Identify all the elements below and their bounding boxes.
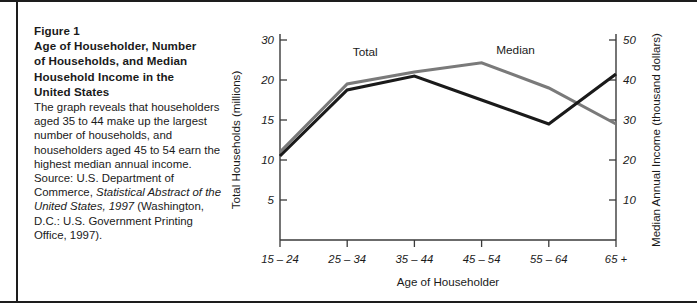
right-axis-ticks: 1020304050	[609, 34, 636, 206]
figure-title-line-4: United States	[34, 85, 226, 99]
figure-panel: Figure 1 Age of Householder, Number of H…	[0, 0, 697, 303]
right-tick-label: 50	[623, 34, 636, 46]
right-tick-label: 10	[623, 194, 636, 206]
series-label-total: Total	[353, 45, 378, 59]
right-tick-label: 40	[623, 74, 636, 86]
left-rule	[16, 2, 18, 301]
figure-title-line-2: of Households, and Median	[34, 54, 226, 68]
x-tick-label: 25 – 34	[327, 253, 366, 265]
right-tick-label: 30	[623, 114, 636, 126]
top-rule	[0, 0, 697, 2]
x-tick-label: 15 – 24	[261, 253, 299, 265]
caption-body-text: The graph reveals that householders aged…	[34, 101, 220, 198]
series-annotations: TotalMedian	[353, 43, 535, 59]
right-tick-label: 20	[622, 154, 636, 166]
series-label-median: Median	[496, 43, 535, 57]
left-tick-label: 10	[261, 154, 274, 166]
figure-description: The graph reveals that householders aged…	[34, 100, 226, 242]
chart-series	[280, 63, 616, 156]
x-axis-title: Age of Householder	[397, 275, 500, 288]
x-tick-label: 55 – 64	[530, 253, 568, 265]
y2-axis-title: Median Annual Income (thousand dollars)	[649, 33, 662, 247]
chart-area: 510152030 1020304050 15 – 2425 – 3435 – …	[228, 18, 690, 286]
series-line-median	[280, 74, 616, 156]
left-tick-label: 20	[260, 74, 274, 86]
figure-title-line-1: Age of Householder, Number	[34, 39, 226, 53]
line-chart: 510152030 1020304050 15 – 2425 – 3435 – …	[228, 18, 690, 286]
figure-title-line-3: Household Income in the	[34, 70, 226, 84]
left-axis-ticks: 510152030	[260, 34, 287, 206]
left-tick-label: 15	[261, 114, 274, 126]
x-axis-ticks: 15 – 2425 – 3435 – 4445 – 5455 – 6465 +	[261, 240, 627, 265]
chart-axes	[280, 34, 616, 240]
x-tick-label: 35 – 44	[396, 253, 434, 265]
x-tick-label: 65 +	[605, 253, 628, 265]
left-tick-label: 30	[261, 34, 274, 46]
figure-number: Figure 1	[34, 24, 226, 38]
y-axis-title: Total Households (millions)	[229, 71, 242, 210]
figure-caption: Figure 1 Age of Householder, Number of H…	[34, 24, 226, 242]
x-tick-label: 45 – 54	[463, 253, 501, 265]
left-tick-label: 5	[268, 194, 275, 206]
